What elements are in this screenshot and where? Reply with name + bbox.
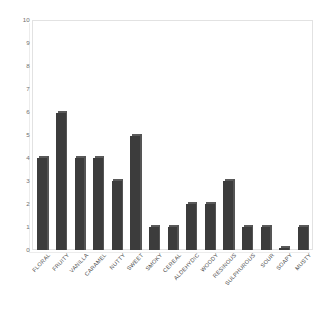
x-axis-tick-label: MUSTY	[293, 252, 312, 271]
bar-body	[223, 181, 233, 250]
bar	[75, 21, 85, 250]
bar-side-face	[270, 225, 272, 250]
y-axis: 012345678910	[0, 20, 30, 250]
y-axis-tick-label: 5	[6, 132, 30, 138]
y-axis-tick-label: 1	[6, 224, 30, 230]
bar-side-face	[140, 134, 142, 251]
bar-body	[130, 136, 140, 251]
y-axis-tick-label: 6	[6, 109, 30, 115]
y-axis-tick-label: 0	[6, 247, 30, 253]
y-axis-tick-label: 10	[6, 17, 30, 23]
x-axis: FLORALFRUITYVANILLACARAMELNUTTYSWEETSMOK…	[33, 252, 312, 322]
bar	[205, 21, 215, 250]
bar-side-face	[122, 179, 124, 250]
bar-body	[149, 227, 159, 250]
x-axis-tick-label: FLORAL	[31, 252, 51, 273]
bar-side-face	[252, 225, 254, 250]
bar-chart: 012345678910 FLORALFRUITYVANILLACARAMELN…	[0, 0, 327, 323]
bar-side-face	[233, 179, 235, 250]
bar	[130, 21, 140, 250]
bar-body	[168, 227, 178, 250]
bar-side-face	[66, 111, 68, 250]
bar-body	[93, 158, 103, 250]
x-axis-tick-label: SOAPY	[275, 252, 293, 271]
x-axis-tick-label: NUTTY	[108, 252, 126, 271]
bar-side-face	[215, 202, 217, 250]
bar-body	[242, 227, 252, 250]
bar	[298, 21, 308, 250]
bar-body	[261, 227, 271, 250]
bar-side-face	[47, 156, 49, 250]
bar	[186, 21, 196, 250]
bar-body	[112, 181, 122, 250]
y-axis-tick-label: 2	[6, 201, 30, 207]
bar-side-face	[103, 156, 105, 250]
bar-body	[37, 158, 47, 250]
bar-body	[75, 158, 85, 250]
bar	[242, 21, 252, 250]
bar	[168, 21, 178, 250]
bar-body	[279, 248, 289, 250]
bars-layer	[33, 21, 312, 250]
bar	[223, 21, 233, 250]
y-axis-tick-label: 8	[6, 63, 30, 69]
bar-body	[298, 227, 308, 250]
y-axis-tick-label: 7	[6, 86, 30, 92]
bar	[279, 21, 289, 250]
bar-body	[186, 204, 196, 250]
bar-side-face	[159, 225, 161, 250]
bar-body	[205, 204, 215, 250]
x-axis-tick-label: SOUR	[259, 252, 275, 269]
bar	[56, 21, 66, 250]
bar	[149, 21, 159, 250]
bar-side-face	[84, 156, 86, 250]
bar	[261, 21, 271, 250]
bar-side-face	[289, 246, 291, 250]
bar-body	[56, 113, 66, 250]
bar	[112, 21, 122, 250]
bar-side-face	[308, 225, 310, 250]
bar	[93, 21, 103, 250]
y-axis-tick-label: 4	[6, 155, 30, 161]
bar-side-face	[196, 202, 198, 250]
x-axis-tick-label: SWEET	[126, 252, 145, 272]
bar-side-face	[177, 225, 179, 250]
y-axis-tick-label: 3	[6, 178, 30, 184]
bar	[37, 21, 47, 250]
y-axis-tick-label: 9	[6, 40, 30, 46]
